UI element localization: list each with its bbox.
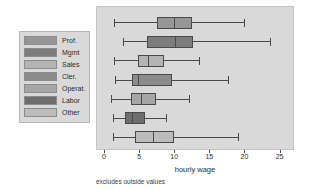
- legend-item[interactable]: Mgmt: [22, 46, 87, 58]
- legend-item[interactable]: Other: [22, 106, 87, 118]
- legend-item-label: Labor: [62, 96, 80, 105]
- legend-item-label: Prof.: [62, 36, 77, 45]
- x-tick-label: 10: [170, 153, 178, 160]
- chart-footnote: excludes outside values: [96, 178, 165, 185]
- legend-item-label: Mgmt: [62, 48, 80, 57]
- box-plot-series: [111, 94, 190, 105]
- box-plot-series: [116, 75, 229, 86]
- legend-item-label: Sales: [62, 60, 80, 69]
- box-iqr: [135, 132, 174, 143]
- box-plot-chart: Prof.MgmtSalesCler.Operat.LaborOther 051…: [0, 0, 309, 190]
- legend-swatch: [24, 36, 57, 45]
- box-plot-svg: [97, 7, 295, 151]
- x-tick-label: 20: [241, 153, 249, 160]
- box-iqr: [147, 36, 192, 47]
- legend-swatch: [24, 96, 57, 105]
- legend-swatch: [24, 48, 57, 57]
- legend-swatch: [24, 72, 57, 81]
- legend-item[interactable]: Sales: [22, 58, 87, 70]
- chart-legend: Prof.MgmtSalesCler.Operat.LaborOther: [19, 31, 90, 123]
- box-plot-series: [114, 55, 199, 66]
- legend-item[interactable]: Prof.: [22, 34, 87, 46]
- legend-item-label: Operat.: [62, 84, 85, 93]
- legend-item[interactable]: Cler.: [22, 70, 87, 82]
- box-iqr: [125, 113, 144, 124]
- legend-item[interactable]: Labor: [22, 94, 87, 106]
- box-plot-series: [113, 113, 166, 124]
- x-axis: 0510152025: [96, 150, 294, 166]
- box-iqr: [139, 55, 164, 66]
- box-plot-series: [113, 132, 238, 143]
- x-tick-label: 5: [137, 153, 141, 160]
- legend-swatch: [24, 108, 57, 117]
- box-plot-series: [123, 36, 270, 47]
- x-tick-label: 15: [205, 153, 213, 160]
- legend-swatch: [24, 60, 57, 69]
- x-axis-label: hourly wage: [96, 165, 294, 174]
- plot-area: [96, 6, 294, 150]
- box-iqr: [132, 94, 156, 105]
- box-plot-series: [114, 17, 245, 28]
- legend-swatch: [24, 84, 57, 93]
- legend-item-label: Other: [62, 108, 80, 117]
- x-tick-label: 25: [276, 153, 284, 160]
- x-tick-label: 0: [102, 153, 106, 160]
- legend-item-label: Cler.: [62, 72, 76, 81]
- legend-item[interactable]: Operat.: [22, 82, 87, 94]
